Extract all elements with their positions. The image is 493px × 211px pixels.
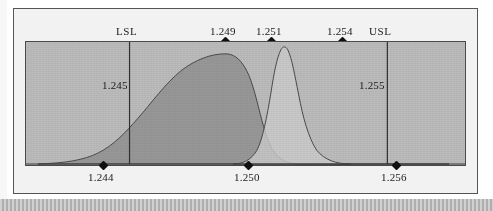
usl-label: USL [369,26,392,37]
plot-area [25,41,466,166]
top-tick-1-251: 1.251 [256,26,282,37]
bottom-tick-1-244: 1.244 [88,172,114,183]
figure-root: LSL 1.249 1.251 1.254 USL 1.245 1.255 1.… [0,0,493,211]
lsl-label: LSL [116,26,137,37]
bottom-tick-1-256: 1.256 [381,172,407,183]
bottom-tick-1-250: 1.250 [234,172,260,183]
usl-value-label: 1.255 [359,80,385,91]
distribution-plot [26,42,465,165]
top-tick-1-254: 1.254 [327,26,353,37]
top-tick-1-249: 1.249 [210,26,236,37]
lsl-value-label: 1.245 [102,80,128,91]
page-bottom-strip [0,199,493,211]
page-edge [0,0,7,199]
